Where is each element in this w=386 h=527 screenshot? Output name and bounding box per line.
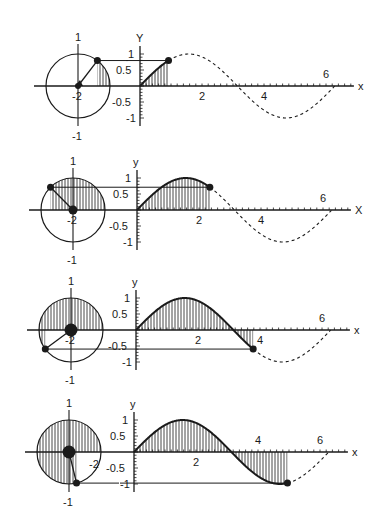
y-axis-label: Y (136, 32, 144, 44)
panel-3: 1-1-2y10.5-0.5-1x246 (27, 275, 360, 386)
circle-label-top: 1 (68, 275, 74, 287)
x-tick-label: 2 (199, 90, 205, 102)
x-tick-label: 4 (255, 434, 261, 446)
x-tick-label: 4 (257, 334, 263, 346)
panel-1: 1-1-2Y10.5-0.5-1x246 (34, 31, 364, 142)
x-axis-label: X (355, 204, 363, 216)
y-tick-label: 1 (128, 48, 134, 60)
x-tick-label: 2 (196, 214, 202, 226)
y-tick-label: -0.5 (112, 96, 131, 108)
circle-label-center: -2 (67, 214, 77, 226)
y-tick-label: -0.5 (108, 340, 127, 352)
x-axis-label: x (352, 446, 358, 458)
circle-label-top: 1 (66, 397, 72, 409)
y-tick-label: 0.5 (113, 188, 128, 200)
x-tick-label: 4 (261, 90, 267, 102)
panel-2: 1-1-2y10.5-0.5-1X246 (29, 155, 363, 266)
x-tick-label: 2 (193, 456, 199, 468)
x-tick-label: 6 (317, 434, 323, 446)
circle-label-center: -2 (65, 334, 75, 346)
x-tick-label: 6 (320, 192, 326, 204)
y-tick-label: 1 (122, 414, 128, 426)
x-tick-label: 6 (323, 68, 329, 80)
x-axis-label: x (358, 80, 364, 92)
y-tick-label: 0.5 (112, 308, 127, 320)
circle-label-bottom: -1 (63, 496, 73, 508)
y-tick-label: -0.5 (106, 462, 125, 474)
y-axis-label: y (132, 276, 138, 288)
circle-label-top: 1 (70, 155, 76, 167)
y-tick-label: 1 (124, 292, 130, 304)
y-tick-label: -0.5 (109, 220, 128, 232)
center-dot (63, 446, 76, 459)
curve-point (250, 346, 257, 353)
y-tick-label: 1 (125, 172, 131, 184)
sine-curve-dashed (287, 452, 328, 483)
circle-label-bottom: -1 (72, 130, 82, 142)
y-tick-label: -1 (122, 356, 132, 368)
curve-point (206, 184, 213, 191)
circle-label-top: 1 (75, 31, 81, 43)
curve-point (165, 57, 172, 64)
circle-label-bottom: -1 (67, 254, 77, 266)
circle-label-bottom: -1 (65, 374, 75, 386)
y-axis-label: y (133, 156, 139, 168)
panel-4: 1-1-2y10.5-0.5-1x246 (25, 397, 358, 508)
x-tick-label: 2 (195, 334, 201, 346)
diagram-canvas: 1-1-2Y10.5-0.5-1x2461-1-2y10.5-0.5-1X246… (0, 0, 386, 527)
y-axis-label: y (130, 398, 136, 410)
circle-label-center: -2 (89, 458, 99, 470)
circle-label-center: -2 (72, 90, 82, 102)
y-tick-label: -1 (123, 236, 133, 248)
y-tick-label: 0.5 (110, 430, 125, 442)
sine-curve-dashed (253, 330, 331, 362)
y-tick-label: -1 (120, 478, 130, 490)
x-axis-label: x (354, 324, 360, 336)
x-tick-label: 4 (258, 214, 264, 226)
y-tick-label: -1 (126, 112, 136, 124)
x-tick-label: 6 (319, 312, 325, 324)
sine-curve-dashed (210, 187, 332, 242)
curve-point (284, 480, 291, 487)
y-tick-label: 0.5 (116, 64, 131, 76)
